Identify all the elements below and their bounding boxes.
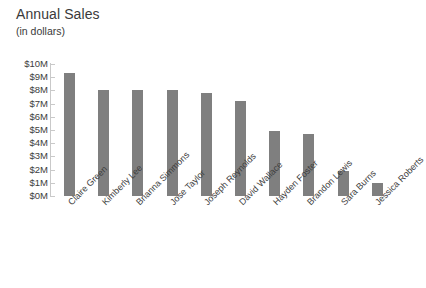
y-axis-tick-label: $1M [30, 177, 48, 188]
bar [167, 90, 178, 196]
x-axis-label: Jessica Roberts [373, 155, 425, 207]
y-axis-tick-label: $2M [30, 164, 48, 175]
bar [235, 101, 246, 196]
bar [64, 73, 75, 196]
y-axis-tick-label: $9M [30, 71, 48, 82]
y-axis-tick-mark [51, 170, 55, 171]
y-axis-tick-mark [51, 143, 55, 144]
y-axis-tick-label: $10M [24, 58, 48, 69]
bar [132, 90, 143, 196]
y-axis-tick-label: $7M [30, 98, 48, 109]
y-axis-tick-mark [51, 77, 55, 78]
y-axis-tick-label: $5M [30, 124, 48, 135]
y-axis-tick-label: $4M [30, 137, 48, 148]
y-axis-tick-label: $6M [30, 111, 48, 122]
clipped-footer-text [62, 279, 392, 288]
bar [201, 93, 212, 196]
y-axis-tick-mark [51, 183, 55, 184]
y-axis-tick-mark [51, 196, 55, 197]
y-axis-tick-mark [51, 90, 55, 91]
y-axis-tick-mark [51, 156, 55, 157]
y-axis-tick-label: $3M [30, 150, 48, 161]
y-axis-tick-mark [51, 104, 55, 105]
y-axis-tick-mark [51, 64, 55, 65]
y-axis-tick-mark [51, 130, 55, 131]
y-axis-tick-mark [51, 117, 55, 118]
y-axis-tick-label: $8M [30, 84, 48, 95]
y-axis-tick-label: $0M [30, 190, 48, 201]
